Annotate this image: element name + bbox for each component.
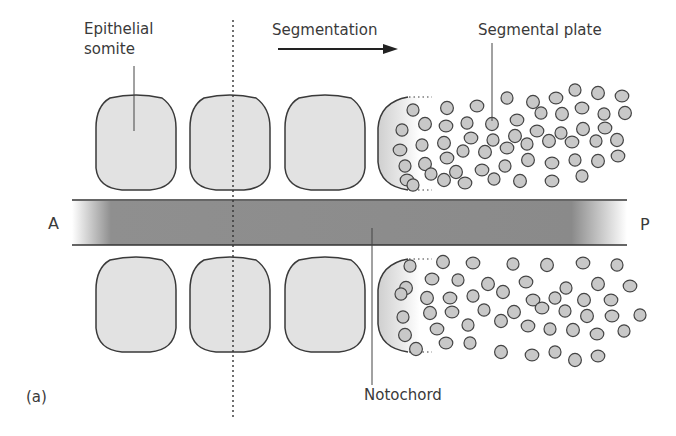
mesenchymal-cell [615,90,629,102]
mesenchymal-cell [565,136,579,148]
segmental-plate-label: Segmental plate [478,21,602,39]
posterior-label: P [640,215,650,234]
mesenchymal-cell [478,304,490,316]
mesenchymal-cell [569,154,581,166]
segmental-plate-cells-lower [395,255,646,366]
mesenchymal-cell [438,173,451,186]
mesenchymal-cell [544,323,556,335]
mesenchymal-cell [605,310,619,322]
mesenchymal-cell [430,323,444,335]
mesenchymal-cell [581,309,594,322]
mesenchymal-cell [495,314,508,327]
mesenchymal-cell [501,92,513,104]
mesenchymal-cell [577,122,590,135]
mesenchymal-cell [395,288,407,300]
mesenchymal-cell [618,325,630,337]
mesenchymal-cell [397,311,409,323]
mesenchymal-cell [510,114,524,126]
mesenchymal-cell [543,134,556,147]
mesenchymal-cell [535,302,549,314]
mesenchymal-cell [399,160,411,172]
mesenchymal-cell [467,290,479,302]
mesenchymal-cell [458,177,472,189]
mesenchymal-cell [530,125,544,137]
mesenchymal-cell [549,292,561,304]
mesenchymal-cell [623,280,637,292]
mesenchymal-cell [495,345,508,358]
somitogenesis-diagram: Epithelial somite Segmentation Segmental… [0,0,676,436]
mesenchymal-cell [500,142,514,154]
mesenchymal-cell [611,259,623,271]
mesenchymal-cell [556,107,569,120]
mesenchymal-cell [445,306,459,318]
mesenchymal-cell [567,323,580,336]
mesenchymal-cell [611,150,625,162]
panel-label: (a) [26,388,47,406]
mesenchymal-cell [470,100,484,112]
upper-somites [96,95,365,190]
mesenchymal-cell [569,353,582,366]
mesenchymal-cell [569,84,581,96]
mesenchymal-cell [576,170,588,182]
mesenchymal-cell [407,179,419,191]
mesenchymal-cell [590,135,602,147]
mesenchymal-cell [441,101,454,114]
mesenchymal-cell [439,120,453,132]
mesenchymal-cell [425,273,439,285]
mesenchymal-cell [592,277,605,290]
mesenchymal-cell [560,282,572,294]
mesenchymal-cell [576,257,590,269]
mesenchymal-cell [521,138,533,150]
mesenchymal-cell [604,294,618,306]
mesenchymal-cell [535,107,547,119]
mesenchymal-cell [514,174,527,187]
mesenchymal-cell [450,165,463,178]
mesenchymal-cell [591,350,605,362]
mesenchymal-cell [634,309,646,321]
mesenchymal-cell [404,260,416,272]
epithelial-somite [285,257,365,352]
mesenchymal-cell [457,145,469,157]
mesenchymal-cell [592,154,605,167]
mesenchymal-cell [488,173,500,185]
mesenchymal-cell [425,168,437,180]
mesenchymal-cell [590,328,604,340]
mesenchymal-cell [421,291,434,304]
mesenchymal-cell [545,157,559,169]
mesenchymal-cell [555,127,567,139]
mesenchymal-cell [416,139,428,151]
mesenchymal-cell [487,134,499,146]
mesenchymal-cell [497,285,510,298]
mesenchymal-cell [619,106,632,119]
epithelial-somite [96,95,176,190]
mesenchymal-cell [507,258,519,270]
mesenchymal-cell [522,153,535,166]
mesenchymal-cell [419,117,432,130]
mesenchymal-cell [575,102,589,114]
epithelial-somite [190,257,270,352]
diagram-graphic [0,0,676,436]
mesenchymal-cell [545,175,559,187]
notochord-label: Notochord [364,386,442,404]
mesenchymal-cell [424,306,437,319]
epithelial-somite [285,95,365,190]
mesenchymal-cell [611,133,624,146]
mesenchymal-cell [462,319,474,331]
mesenchymal-cell [464,132,478,144]
mesenchymal-cell [464,337,476,349]
segmentation-arrow-icon [278,44,398,54]
lower-somites [96,257,365,352]
mesenchymal-cell [578,293,591,306]
mesenchymal-cell [452,274,464,286]
mesenchymal-cell [592,86,605,99]
mesenchymal-cell [541,258,554,271]
mesenchymal-cell [479,145,492,158]
mesenchymal-cell [521,320,535,332]
epithelial-somite-label-line1: Epithelial [84,20,153,38]
mesenchymal-cell [499,160,511,172]
mesenchymal-cell [393,144,407,156]
mesenchymal-cell [437,255,450,268]
mesenchymal-cell [482,277,495,290]
anterior-label: A [48,214,59,233]
mesenchymal-cell [519,276,533,288]
